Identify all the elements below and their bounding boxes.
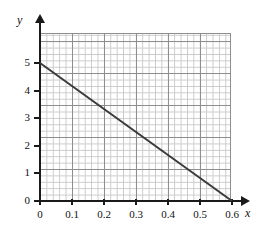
- line-chart-figure: y x 00.10.20.30.40.50.6 012345: [0, 0, 258, 235]
- data-line-series: [40, 63, 232, 201]
- data-series-layer: [0, 0, 258, 235]
